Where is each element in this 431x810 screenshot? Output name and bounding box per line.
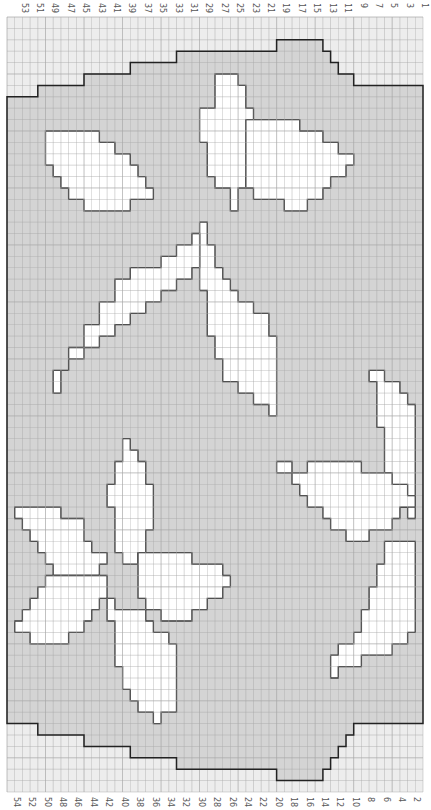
svg-text:18: 18	[289, 797, 298, 807]
svg-text:3: 3	[405, 3, 414, 8]
svg-text:15: 15	[312, 3, 321, 13]
svg-text:7: 7	[374, 3, 383, 8]
svg-text:2: 2	[412, 797, 421, 802]
svg-text:37: 37	[143, 3, 152, 13]
svg-text:1: 1	[420, 3, 429, 8]
svg-text:53: 53	[20, 3, 29, 13]
svg-text:42: 42	[104, 797, 113, 807]
svg-text:48: 48	[58, 797, 67, 807]
svg-text:36: 36	[151, 797, 160, 807]
svg-text:50: 50	[43, 797, 52, 807]
svg-text:14: 14	[320, 797, 329, 807]
svg-text:31: 31	[189, 3, 198, 13]
svg-text:16: 16	[305, 797, 314, 807]
svg-text:45: 45	[81, 3, 90, 13]
svg-text:22: 22	[258, 797, 267, 807]
svg-text:21: 21	[266, 3, 275, 13]
svg-text:24: 24	[243, 797, 252, 807]
svg-text:17: 17	[297, 3, 306, 13]
svg-text:40: 40	[120, 797, 129, 807]
svg-text:35: 35	[158, 3, 167, 13]
svg-text:51: 51	[35, 3, 44, 13]
svg-text:28: 28	[212, 797, 221, 807]
svg-text:26: 26	[228, 797, 237, 807]
svg-text:10: 10	[351, 797, 360, 807]
svg-text:19: 19	[281, 3, 290, 13]
svg-text:41: 41	[112, 3, 121, 13]
svg-text:54: 54	[12, 797, 21, 807]
svg-text:52: 52	[27, 797, 36, 807]
svg-text:33: 33	[174, 3, 183, 13]
top-column-labels: 5351494745434139373533312927252321191715…	[20, 3, 430, 13]
svg-text:49: 49	[50, 3, 59, 13]
svg-text:44: 44	[89, 797, 98, 807]
svg-text:46: 46	[73, 797, 82, 807]
svg-text:25: 25	[235, 3, 244, 13]
svg-text:23: 23	[251, 3, 260, 13]
svg-text:13: 13	[328, 3, 337, 13]
svg-text:12: 12	[335, 797, 344, 807]
svg-text:38: 38	[135, 797, 144, 807]
svg-text:34: 34	[166, 797, 175, 807]
svg-text:32: 32	[181, 797, 190, 807]
svg-text:29: 29	[204, 3, 213, 13]
svg-text:9: 9	[359, 3, 368, 8]
svg-text:5: 5	[389, 3, 398, 8]
svg-text:43: 43	[97, 3, 106, 13]
svg-text:39: 39	[127, 3, 136, 13]
svg-text:20: 20	[274, 797, 283, 807]
knitting-chart: 5351494745434139373533312927252321191715…	[0, 0, 431, 810]
bottom-column-labels: 5452504846444240383634323028262422201816…	[12, 797, 422, 807]
svg-text:30: 30	[197, 797, 206, 807]
svg-text:27: 27	[220, 3, 229, 13]
svg-text:47: 47	[66, 3, 75, 13]
svg-text:11: 11	[343, 3, 352, 13]
svg-text:6: 6	[382, 797, 391, 802]
svg-text:4: 4	[397, 797, 406, 802]
svg-text:8: 8	[366, 797, 375, 802]
